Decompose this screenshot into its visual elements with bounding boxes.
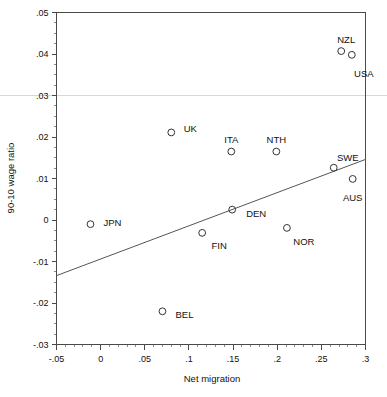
plot-canvas: JPNBELUKFINITADENNTHNORSWENZLUSAAUS -.03… [0, 0, 387, 397]
data-point-label: DEN [246, 208, 266, 219]
data-point-marker [228, 148, 235, 155]
y-tick-label: -.03 [33, 340, 49, 350]
data-point-marker [330, 164, 337, 171]
scatter-plot-figure: JPNBELUKFINITADENNTHNORSWENZLUSAAUS -.03… [0, 0, 387, 397]
y-tick-label: .03 [36, 91, 49, 101]
data-point-label: JPN [104, 217, 122, 228]
y-axis-title: 90-10 wage ratio [5, 143, 16, 214]
x-tick-label: .25 [315, 354, 328, 364]
y-tick-label: .02 [36, 132, 49, 142]
data-point-marker [87, 221, 94, 228]
x-tick-label: .1 [185, 354, 193, 364]
x-tick-label: 0 [98, 354, 103, 364]
data-point-label: USA [354, 68, 374, 79]
data-point-marker [273, 148, 280, 155]
data-point-label: NZL [337, 34, 355, 45]
plot-frame [57, 13, 366, 345]
data-point-label: NOR [293, 236, 314, 247]
data-point-label: UK [184, 123, 198, 134]
x-tick-label: .3 [362, 354, 370, 364]
data-point-label: AUS [343, 192, 363, 203]
x-tick-label: .05 [139, 354, 152, 364]
data-point-label: ITA [224, 134, 239, 145]
data-point-label: NTH [267, 134, 287, 145]
point-labels: JPNBELUKFINITADENNTHNORSWENZLUSAAUS [104, 34, 375, 319]
data-point-label: FIN [212, 240, 227, 251]
y-tick-label: 0 [43, 215, 48, 225]
y-tick-labels: -.03-.02-.010.01.02.03.04.05 [33, 8, 49, 350]
data-point-marker [168, 129, 175, 136]
x-axis-ticks [57, 345, 366, 350]
data-point-label: BEL [175, 309, 193, 320]
data-point-label: SWE [337, 152, 359, 163]
x-tick-label: .2 [273, 354, 281, 364]
data-point-marker [199, 229, 206, 236]
data-points [87, 48, 356, 315]
data-point-marker [348, 51, 355, 58]
data-point-marker [159, 308, 166, 315]
y-tick-label: .05 [36, 8, 49, 18]
y-axis-ticks [52, 13, 57, 345]
data-point-marker [349, 176, 356, 183]
y-tick-label: .01 [36, 174, 49, 184]
x-tick-label: .15 [227, 354, 240, 364]
y-tick-label: -.01 [33, 257, 49, 267]
data-point-marker [338, 48, 345, 55]
x-tick-label: -.05 [49, 354, 65, 364]
x-axis-title: Net migration [184, 373, 241, 384]
data-point-marker [284, 224, 291, 231]
y-tick-label: -.02 [33, 298, 49, 308]
y-tick-label: .04 [36, 49, 49, 59]
x-tick-labels: -.050.05.1.15.2.25.3 [49, 354, 370, 364]
